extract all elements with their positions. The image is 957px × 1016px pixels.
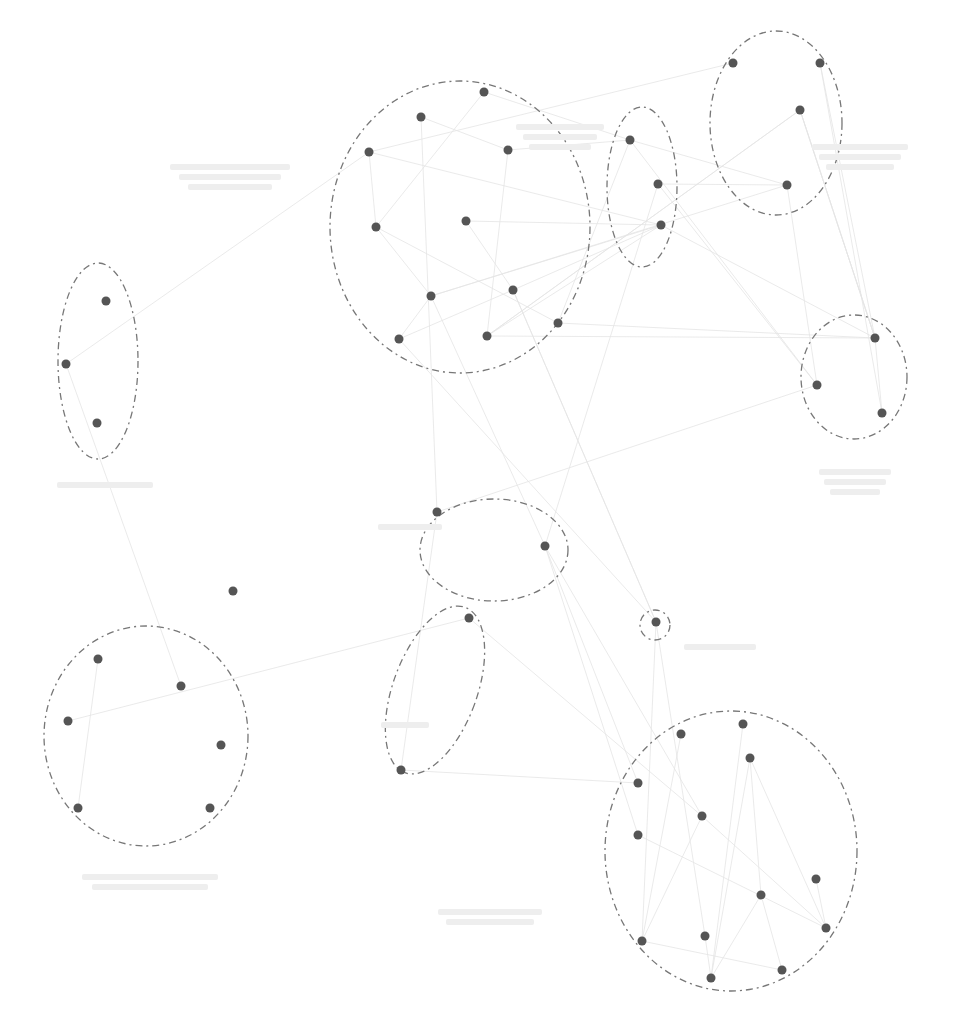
edge (630, 140, 817, 385)
edge (820, 63, 875, 338)
graph-node[interactable] (427, 292, 436, 301)
graph-node[interactable] (395, 335, 404, 344)
edge (399, 339, 656, 622)
graph-node[interactable] (729, 59, 738, 68)
graph-node[interactable] (372, 223, 381, 232)
cluster-label (370, 520, 450, 534)
graph-node[interactable] (796, 106, 805, 115)
cluster-label (45, 478, 165, 492)
edge (487, 150, 508, 336)
graph-node[interactable] (657, 221, 666, 230)
edge (875, 338, 882, 413)
cluster-label (505, 120, 615, 154)
graph-node[interactable] (433, 508, 442, 517)
edge (68, 618, 469, 721)
cluster-outline (607, 107, 677, 267)
edges (66, 63, 882, 978)
graph-node[interactable] (878, 409, 887, 418)
edge (437, 385, 817, 512)
edge (658, 184, 787, 185)
graph-node[interactable] (462, 217, 471, 226)
edge (750, 758, 826, 928)
graph-node[interactable] (417, 113, 426, 122)
edge (466, 221, 513, 290)
graph-node[interactable] (229, 587, 238, 596)
graph-node[interactable] (365, 148, 374, 157)
edge (787, 185, 817, 385)
graph-node[interactable] (554, 319, 563, 328)
graph-node[interactable] (102, 297, 111, 306)
edge (513, 225, 661, 290)
edge (466, 221, 661, 225)
graph-node[interactable] (64, 717, 73, 726)
graph-node[interactable] (812, 875, 821, 884)
edge (545, 546, 638, 835)
edge (421, 117, 437, 512)
edge (711, 724, 743, 978)
edge (78, 659, 98, 808)
edge (642, 816, 702, 941)
edge (66, 364, 181, 686)
edge (702, 816, 826, 928)
graph-node[interactable] (778, 966, 787, 975)
edge (401, 770, 638, 783)
graph-node[interactable] (707, 974, 716, 983)
graph-node[interactable] (483, 332, 492, 341)
cluster-outline (365, 593, 504, 787)
edge (487, 225, 661, 336)
graph-node[interactable] (638, 937, 647, 946)
graph-node[interactable] (509, 286, 518, 295)
graph-node[interactable] (757, 891, 766, 900)
graph-node[interactable] (783, 181, 792, 190)
cluster-outline (44, 626, 248, 846)
graph-node[interactable] (634, 831, 643, 840)
graph-node[interactable] (93, 419, 102, 428)
edge (558, 323, 875, 338)
graph-node[interactable] (634, 779, 643, 788)
cluster-label (65, 870, 235, 894)
edge (820, 63, 882, 413)
edge (658, 184, 817, 385)
graph-node[interactable] (217, 741, 226, 750)
graph-node[interactable] (94, 655, 103, 664)
cluster-label (800, 140, 920, 174)
graph-node[interactable] (871, 334, 880, 343)
graph-node[interactable] (480, 88, 489, 97)
graph-node[interactable] (739, 720, 748, 729)
edge (399, 290, 513, 339)
graph-node[interactable] (62, 360, 71, 369)
graph-node[interactable] (652, 618, 661, 627)
cluster-outline (801, 315, 907, 439)
graph-node[interactable] (654, 180, 663, 189)
edge (376, 227, 558, 323)
cluster-label (675, 640, 765, 654)
cluster-label (155, 160, 305, 194)
edge (642, 941, 782, 970)
graph-node[interactable] (206, 804, 215, 813)
graph-node[interactable] (397, 766, 406, 775)
edge (469, 618, 702, 816)
edge (545, 546, 638, 783)
edge (376, 227, 431, 296)
graph-node[interactable] (626, 136, 635, 145)
graph-node[interactable] (677, 730, 686, 739)
graph-node[interactable] (701, 932, 710, 941)
edge (376, 92, 484, 227)
graph-node[interactable] (541, 542, 550, 551)
graph-node[interactable] (746, 754, 755, 763)
edge (545, 184, 658, 546)
graph-node[interactable] (822, 924, 831, 933)
graph-node[interactable] (74, 804, 83, 813)
edge (369, 152, 376, 227)
graph-node[interactable] (816, 59, 825, 68)
graph-node[interactable] (698, 812, 707, 821)
graph-node[interactable] (177, 682, 186, 691)
edge (369, 152, 661, 225)
edge (513, 290, 656, 622)
edge (558, 140, 630, 323)
edge (638, 835, 826, 928)
graph-node[interactable] (813, 381, 822, 390)
edge (642, 622, 656, 941)
graph-node[interactable] (465, 614, 474, 623)
edge (630, 140, 787, 185)
